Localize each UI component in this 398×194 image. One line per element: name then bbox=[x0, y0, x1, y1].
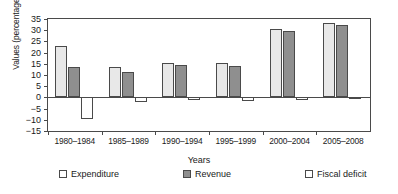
x-axis-tick bbox=[48, 131, 49, 135]
y-axis-tick-label: −15 bbox=[1, 126, 41, 136]
legend-swatch-fiscal-deficit-icon bbox=[305, 170, 313, 178]
x-axis-tick bbox=[209, 131, 210, 135]
bar-revenue bbox=[336, 25, 348, 98]
bar-deficit bbox=[296, 97, 308, 99]
y-axis-tick-label: 0 bbox=[1, 92, 41, 102]
bar-expenditure bbox=[55, 46, 67, 98]
y-axis-tick bbox=[44, 30, 48, 31]
legend-swatch-revenue-icon bbox=[183, 170, 191, 178]
bar-revenue bbox=[229, 66, 241, 97]
y-axis-tick-label: 35 bbox=[1, 14, 41, 24]
legend-item-label: Expenditure bbox=[71, 169, 119, 179]
y-axis-tick-label: 20 bbox=[1, 48, 41, 58]
legend-item-expenditure[interactable]: Expenditure bbox=[59, 169, 119, 179]
x-axis-tick bbox=[155, 131, 156, 135]
x-axis-tick bbox=[102, 131, 103, 135]
bar-expenditure bbox=[109, 67, 121, 97]
bar-expenditure bbox=[323, 23, 335, 97]
bar-revenue bbox=[175, 65, 187, 97]
legend-item-fiscal-deficit[interactable]: Fiscal deficit bbox=[305, 169, 367, 179]
bar-chart-figure: Values (percentage of GDP) 3530252015105… bbox=[0, 0, 398, 194]
y-axis-tick bbox=[44, 41, 48, 42]
chart-legend: ExpenditureRevenueFiscal deficit bbox=[47, 169, 371, 183]
x-axis-tick bbox=[316, 131, 317, 135]
x-axis-tick-label: 2000–2004 bbox=[269, 136, 310, 146]
x-axis-tick bbox=[263, 131, 264, 135]
y-axis-tick bbox=[44, 120, 48, 121]
legend-item-label: Fiscal deficit bbox=[317, 169, 367, 179]
x-axis-title: Years bbox=[0, 155, 398, 165]
plot-area: 35302520151050−5−10−151980–19841985–1989… bbox=[47, 18, 371, 132]
x-axis-tick-label: 2005–2008 bbox=[323, 136, 364, 146]
bar-deficit bbox=[135, 97, 147, 101]
y-axis-tick-label: 25 bbox=[1, 36, 41, 46]
bar-deficit bbox=[188, 97, 200, 99]
y-axis-tick-label: 5 bbox=[1, 81, 41, 91]
legend-swatch-expenditure-icon bbox=[59, 170, 67, 178]
y-axis-tick-label: 15 bbox=[1, 59, 41, 69]
bar-revenue bbox=[122, 72, 134, 98]
bar-expenditure bbox=[162, 63, 174, 98]
x-axis-tick-label: 1985–1989 bbox=[108, 136, 149, 146]
plot-inner: 35302520151050−5−10−151980–19841985–1989… bbox=[48, 19, 370, 131]
y-axis-tick bbox=[44, 19, 48, 20]
y-axis-tick-label: 30 bbox=[1, 25, 41, 35]
bar-deficit bbox=[242, 97, 254, 100]
zero-baseline bbox=[48, 97, 370, 98]
bar-revenue bbox=[283, 31, 295, 97]
y-axis-tick bbox=[44, 109, 48, 110]
x-axis-tick-label: 1995–1999 bbox=[216, 136, 257, 146]
bar-deficit bbox=[81, 97, 93, 118]
x-axis-tick-label: 1980–1984 bbox=[55, 136, 96, 146]
y-axis-tick-label: −10 bbox=[1, 115, 41, 125]
bar-expenditure bbox=[216, 63, 228, 98]
bar-revenue bbox=[68, 67, 80, 97]
y-axis-tick-label: −5 bbox=[1, 104, 41, 114]
bar-deficit bbox=[349, 97, 361, 99]
y-axis-tick bbox=[44, 86, 48, 87]
bar-expenditure bbox=[270, 29, 282, 97]
y-axis-tick bbox=[44, 64, 48, 65]
x-axis-tick-label: 1990–1994 bbox=[162, 136, 203, 146]
y-axis-tick bbox=[44, 53, 48, 54]
y-axis-tick bbox=[44, 75, 48, 76]
legend-item-label: Revenue bbox=[195, 169, 231, 179]
legend-item-revenue[interactable]: Revenue bbox=[183, 169, 231, 179]
y-axis-tick-label: 10 bbox=[1, 70, 41, 80]
